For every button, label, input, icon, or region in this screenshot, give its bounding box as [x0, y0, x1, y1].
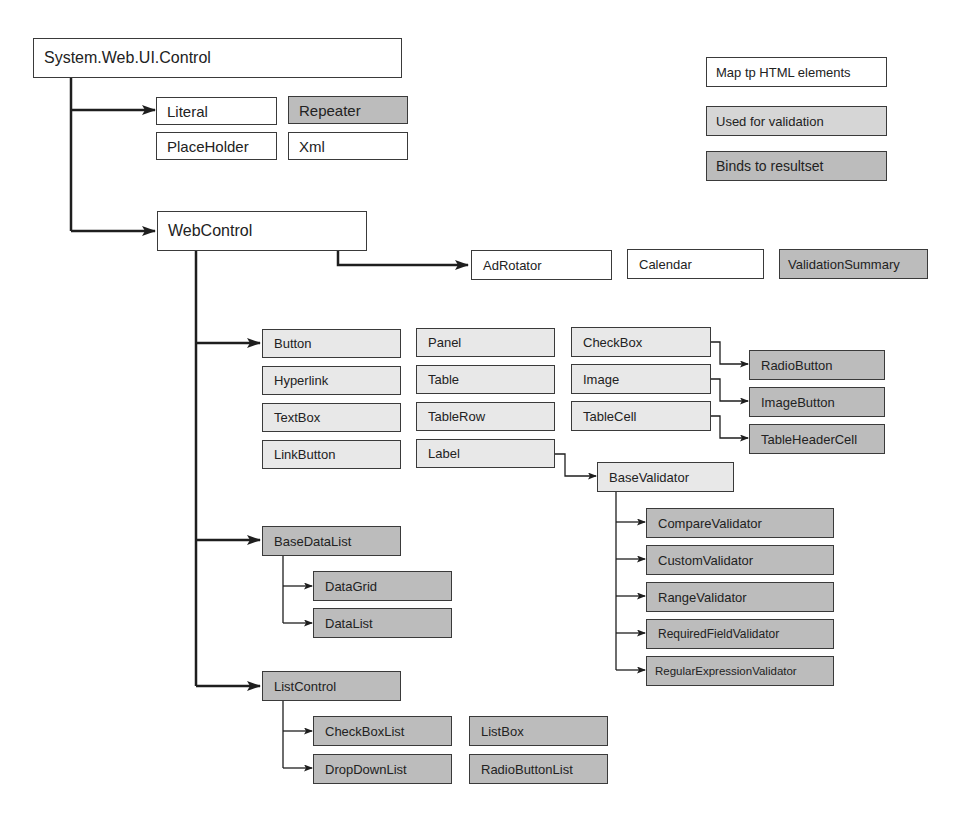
- node-regularexpressionvalidator: RegularExpressionValidator: [646, 656, 834, 686]
- node-label: Label: [416, 439, 555, 468]
- node-radiobutton: RadioButton: [749, 350, 885, 380]
- node-listbox: ListBox: [469, 716, 608, 746]
- node-literal: Literal: [156, 97, 277, 125]
- node-dropdownlist: DropDownList: [313, 754, 452, 784]
- node-radiobuttonlist: RadioButtonList: [469, 754, 608, 784]
- legend-resultset: Binds to resultset: [706, 151, 887, 181]
- node-table: Table: [416, 365, 555, 394]
- node-placeholder: PlaceHolder: [156, 132, 277, 160]
- node-webcontrol: WebControl: [157, 211, 367, 251]
- node-system-web-ui-control: System.Web.UI.Control: [33, 38, 402, 78]
- node-adrotator: AdRotator: [471, 250, 612, 280]
- node-xml: Xml: [288, 132, 408, 160]
- node-tablecell: TableCell: [571, 401, 711, 431]
- legend-validation: Used for validation: [706, 106, 887, 136]
- node-linkbutton: LinkButton: [262, 440, 401, 469]
- node-listcontrol: ListControl: [262, 671, 401, 701]
- node-datagrid: DataGrid: [313, 571, 452, 601]
- node-panel: Panel: [416, 328, 555, 357]
- node-basevalidator: BaseValidator: [597, 462, 734, 492]
- node-repeater: Repeater: [288, 96, 408, 124]
- node-calendar: Calendar: [627, 249, 764, 279]
- legend-html-elements: Map tp HTML elements: [706, 57, 887, 87]
- node-checkboxlist: CheckBoxList: [313, 716, 452, 746]
- node-imagebutton: ImageButton: [749, 387, 885, 417]
- node-textbox: TextBox: [262, 403, 401, 432]
- node-hyperlink: Hyperlink: [262, 366, 401, 395]
- node-checkbox: CheckBox: [571, 327, 711, 357]
- node-image: Image: [571, 364, 711, 394]
- node-rangevalidator: RangeValidator: [646, 582, 834, 612]
- node-comparevalidator: CompareValidator: [646, 508, 834, 538]
- class-hierarchy-diagram: Map tp HTML elements Used for validation…: [0, 0, 963, 823]
- node-customvalidator: CustomValidator: [646, 545, 834, 575]
- node-basedatalist: BaseDataList: [262, 526, 401, 556]
- node-tableheadercell: TableHeaderCell: [749, 424, 885, 454]
- node-validationsummary: ValidationSummary: [779, 249, 928, 279]
- node-datalist: DataList: [313, 608, 452, 638]
- node-tablerow: TableRow: [416, 402, 555, 431]
- node-button: Button: [262, 329, 401, 358]
- node-requiredfieldvalidator: RequiredFieldValidator: [646, 619, 834, 649]
